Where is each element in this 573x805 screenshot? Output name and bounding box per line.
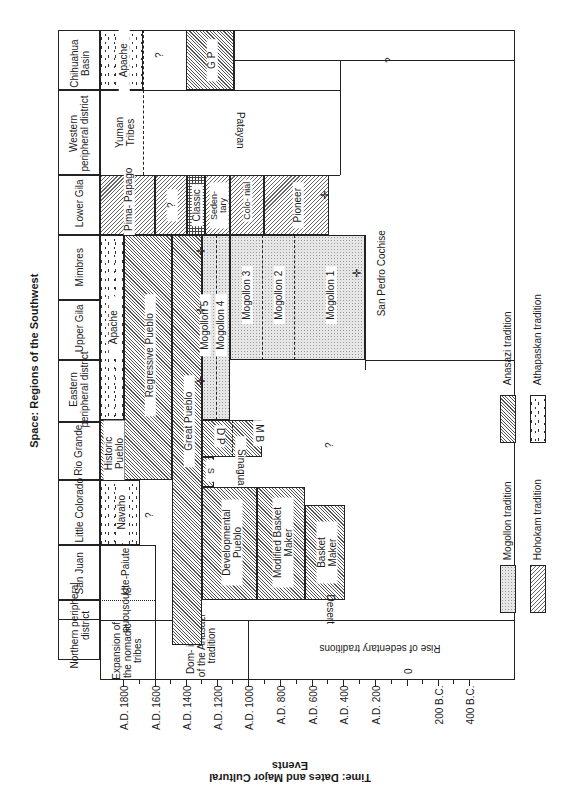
unknown-marker: ?	[155, 45, 166, 65]
region-lower-gila: Lower Gila	[58, 175, 100, 235]
tick-label: A.D. 1200	[213, 686, 224, 746]
legend-label-mogollon: Mogollon tradition	[503, 460, 514, 560]
arrow-marker: ✛	[320, 190, 329, 201]
block-colonial: Colo- nial	[230, 175, 264, 235]
tick-label: A.D. 200	[371, 686, 382, 746]
tick	[264, 680, 265, 684]
tick-label: A.D. 1400	[182, 686, 193, 746]
block-pioneer: Pioneer	[264, 175, 329, 235]
arrow-marker: ✛	[352, 268, 361, 279]
divider	[155, 545, 156, 620]
block-classic: Classic	[187, 175, 205, 235]
block-navaho: Navaho	[100, 480, 140, 545]
tick-label: A.D. 800	[276, 686, 287, 746]
block-regressive-pueblo: Regressive Pueblo	[124, 235, 172, 480]
tick-label: A.D. 1000	[244, 686, 255, 746]
label-mogollon-1: Mogollon 1	[326, 266, 337, 324]
tick	[327, 680, 328, 684]
events-sep	[248, 620, 249, 680]
events-divider	[100, 620, 515, 621]
divider	[234, 60, 515, 61]
region-northern: Northern peripheral district	[58, 600, 100, 660]
block-apache: Apache	[100, 235, 124, 420]
tick	[201, 680, 202, 684]
event-sedentary: Rise of sedentary traditions	[310, 643, 450, 654]
tick	[453, 680, 454, 684]
tick	[422, 680, 423, 684]
divider	[340, 60, 341, 175]
space-axis-title: Space: Regions of the Southwest	[29, 236, 41, 486]
label-mogollon-2: Mogollon 2	[274, 266, 285, 324]
tick	[359, 680, 360, 684]
block-apache-chihuahua: Apache	[100, 30, 143, 90]
divider	[365, 360, 515, 361]
legend-label-hohokam: Hohokam tradition	[533, 460, 544, 560]
events-sep	[155, 620, 156, 680]
label-mb: M B	[254, 420, 265, 446]
time-axis-title: Time: Dates and Major Cultural Events	[190, 760, 390, 784]
row-divider	[100, 90, 340, 91]
block-patayan: Patayan	[235, 100, 246, 160]
divider	[262, 235, 263, 360]
arrow-marker: ✛	[196, 305, 205, 316]
label-mogollon-4: Mogollon 4	[216, 294, 227, 356]
block-s: S	[202, 457, 214, 487]
divider	[365, 235, 366, 370]
block-great-pueblo: Great Pueblo	[172, 235, 202, 645]
region-eastern: Eastern peripheral district	[58, 360, 100, 422]
region-chihuahua: Chihuahua Basin	[58, 30, 100, 90]
tick-label: A.D. 600	[308, 686, 319, 746]
legend-label-athapaskan: Athapaskan tradition	[533, 265, 544, 385]
block-gila-unknown: ?	[155, 175, 187, 235]
region-rio-grande: Rio Grande	[58, 422, 100, 480]
arrow-marker: ✛	[196, 246, 205, 257]
divider	[294, 235, 295, 360]
tick	[391, 680, 392, 684]
tick	[139, 680, 140, 684]
block-sedentary: Seden- tary	[205, 175, 230, 235]
label-shoshone: Shoshone	[121, 579, 132, 639]
tick	[232, 680, 233, 684]
tick-label: 200 B.C.	[434, 686, 445, 746]
tick	[170, 680, 171, 684]
label-desert: Desert	[325, 579, 336, 639]
legend-swatch-hohokam	[530, 565, 546, 613]
divider	[232, 420, 233, 457]
region-little-colorado: Little Colorado	[58, 480, 100, 545]
unknown-marker: ?	[145, 505, 156, 525]
tick-label: A.D. 400	[339, 686, 350, 746]
arrow-marker: ✛	[196, 376, 205, 387]
block-yuman: Yuman Tribes	[115, 103, 136, 163]
block-developmental-pueblo: Developmental Pueblo	[202, 487, 257, 600]
block-historic-pueblo: Historic Pueblo	[100, 420, 124, 480]
legend-swatch-athapaskan	[530, 395, 546, 443]
region-western: Western peripheral district	[58, 90, 100, 175]
legend-label-anasazi: Anasazi tradition	[503, 285, 514, 385]
block-gp: G P	[186, 30, 234, 90]
unknown-marker: ?	[325, 435, 336, 455]
legend-swatch-anasazi	[500, 395, 516, 443]
tick-label: A.D. 1800	[119, 686, 130, 746]
tick-label: 0	[403, 669, 414, 729]
tick-label: A.D. 1600	[151, 686, 162, 746]
tick-label: 400 B.C.	[465, 686, 476, 746]
divider	[143, 30, 144, 90]
block-pima-papago: Pima- Papago	[100, 175, 155, 235]
label-san-pedro-cochise: San Pedro Cochise	[377, 223, 388, 323]
region-mimbres: Mimbres	[58, 235, 100, 300]
legend-swatch-mogollon	[500, 565, 516, 613]
divider	[143, 90, 144, 175]
label-mogollon-3: Mogollon 3	[242, 266, 253, 324]
tick	[296, 680, 297, 684]
block-modified-basket-maker: Modified Basket Maker	[257, 487, 305, 600]
